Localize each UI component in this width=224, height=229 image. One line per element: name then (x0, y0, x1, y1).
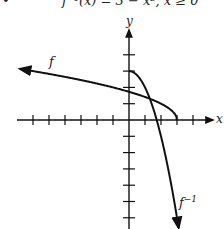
x-axis-label: x (216, 112, 223, 126)
curves (20, 69, 178, 228)
f-inverse-sup: −1 (184, 194, 197, 204)
f-curve-label: f (49, 54, 54, 69)
f-inverse-curve-label: f−1 (179, 194, 197, 210)
y-axis-label: y (126, 14, 133, 28)
